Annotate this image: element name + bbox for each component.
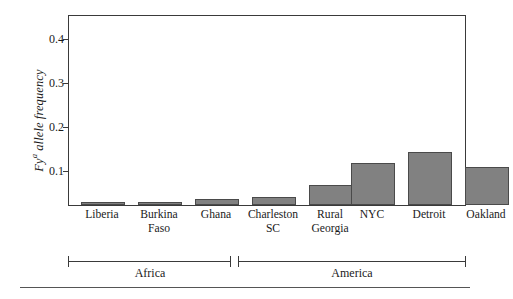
x-tick-label-oakland: Oakland <box>446 208 513 222</box>
y-tick-label-0.2: 0.2 <box>32 122 64 132</box>
y-tick-label-0.3: 0.3 <box>32 78 64 88</box>
x-axis-tick-labels: Liberia Burkina Faso Ghana Charleston SC… <box>68 208 466 248</box>
bar-series <box>69 16 465 205</box>
africa-bracket-line <box>68 261 230 262</box>
bar-oakland <box>465 167 509 205</box>
y-tick-label-0.1: 0.1 <box>32 166 64 176</box>
bar-charleston-sc <box>252 197 296 205</box>
africa-bracket-end-cap <box>230 256 231 267</box>
group-brackets: Africa America <box>68 255 466 289</box>
bar-ghana <box>195 199 239 205</box>
group-label-africa: Africa <box>98 266 202 281</box>
plot-area <box>68 15 466 206</box>
y-tick-label-0.4: 0.4 <box>32 34 64 44</box>
bar-nyc <box>351 163 395 205</box>
bar-burkina-faso <box>138 202 182 205</box>
y-axis-tick-labels: 0.1 0.2 0.3 0.4 <box>20 0 64 299</box>
bar-liberia <box>81 202 125 205</box>
america-bracket-line <box>238 261 466 262</box>
bar-detroit <box>408 152 452 205</box>
america-bracket-end-cap <box>465 256 466 267</box>
bar-rural-georgia <box>309 185 353 205</box>
bottom-rule <box>20 287 470 288</box>
group-label-america: America <box>300 266 404 281</box>
